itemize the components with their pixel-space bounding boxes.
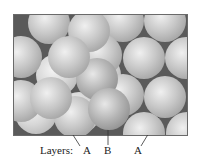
layer-label-a-left: A: [83, 144, 91, 156]
layer-label-b: B: [104, 144, 111, 156]
sphere-layer-a: [165, 37, 188, 79]
layer-label-a-right: A: [134, 144, 142, 156]
sphere-packing-figure: [13, 14, 188, 136]
sphere-layer-b: [88, 88, 130, 130]
sphere-layer-a: [144, 76, 186, 118]
caption-prefix: Layers:: [40, 144, 73, 156]
sphere-layer-a: [48, 36, 90, 78]
sphere-layer-a-top: [30, 77, 72, 119]
sphere-layer-a: [123, 37, 165, 79]
